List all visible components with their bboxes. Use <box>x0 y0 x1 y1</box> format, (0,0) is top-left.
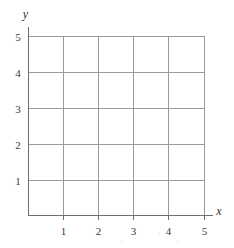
vertical-gridlines <box>64 37 205 216</box>
plot-area: 1 2 3 4 5 5 4 3 2 1 y x <box>0 0 234 248</box>
horizontal-gridlines <box>29 37 205 181</box>
y-tick-label-5: 5 <box>15 31 21 43</box>
x-tick-label-5: 5 <box>202 225 208 237</box>
y-tick-label-3: 3 <box>15 103 21 115</box>
x-tick-labels: 1 2 3 4 5 <box>61 225 208 237</box>
y-tick-label-4: 4 <box>15 67 21 79</box>
axis-lines <box>28 27 213 217</box>
x-tick-label-3: 3 <box>131 225 137 237</box>
x-axis-tickmarks <box>64 216 205 220</box>
y-tick-labels: 5 4 3 2 1 <box>15 31 21 187</box>
y-tick-label-2: 2 <box>15 139 21 151</box>
x-tick-label-2: 2 <box>96 225 102 237</box>
coordinate-grid-figure: 1 2 3 4 5 5 4 3 2 1 y x <box>0 0 234 248</box>
y-tick-label-1: 1 <box>15 175 21 187</box>
y-axis-label: y <box>22 7 29 21</box>
x-tick-label-4: 4 <box>166 225 172 237</box>
x-axis-label: x <box>215 204 222 218</box>
x-tick-label-1: 1 <box>61 225 67 237</box>
